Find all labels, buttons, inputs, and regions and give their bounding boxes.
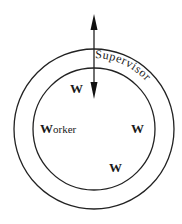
worker-label: Worker [40, 121, 77, 136]
arrow-up-icon [91, 14, 98, 49]
supervisor-label: Supervisor [95, 47, 155, 84]
worker-w-bottom: W [109, 160, 122, 175]
worker-w-top: W [70, 81, 83, 96]
supervisor-worker-diagram: Supervisor W Worker W W [0, 0, 182, 224]
worker-w-right: W [131, 121, 144, 136]
